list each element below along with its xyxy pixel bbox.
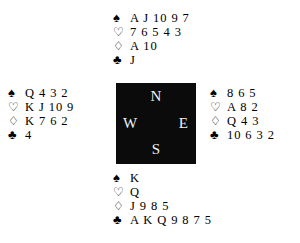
bridge-deal-diagram: ♠ A J 10 9 7 ♡ 7 6 5 4 3 ♢ A 10 ♣ J ♠ Q … [0, 0, 300, 243]
hand-south-clubs-row: ♣ A K Q 9 8 7 5 [113, 213, 212, 227]
hand-west-hearts-cards: K J 10 9 [25, 100, 74, 114]
club-icon: ♣ [210, 128, 227, 142]
hand-north-hearts-row: ♡ 7 6 5 4 3 [113, 25, 190, 39]
hand-east-diamonds-cards: Q 4 3 [227, 114, 259, 128]
hand-south: ♠ K ♡ Q ♢ J 9 8 5 ♣ A K Q 9 8 7 5 [113, 171, 212, 227]
hand-north-hearts-cards: 7 6 5 4 3 [130, 25, 182, 39]
spade-icon: ♠ [210, 86, 227, 100]
compass-label-west: W [123, 116, 137, 131]
compass-label-east: E [179, 116, 188, 131]
hand-north-clubs-row: ♣ J [113, 53, 190, 67]
hand-west-spades-cards: Q 4 3 2 [25, 86, 68, 100]
hand-north-clubs-cards: J [130, 53, 136, 67]
hand-east-diamonds-row: ♢ Q 4 3 [210, 114, 275, 128]
hand-west-hearts-row: ♡ K J 10 9 [8, 100, 74, 114]
club-icon: ♣ [113, 213, 130, 227]
compass-label-south: S [116, 142, 196, 157]
hand-west-clubs-cards: 4 [25, 128, 32, 142]
compass-label-north: N [116, 89, 196, 104]
hand-south-clubs-cards: A K Q 9 8 7 5 [130, 213, 212, 227]
compass-box: N W E S [116, 83, 196, 164]
hand-east-hearts-cards: A 8 2 [227, 100, 259, 114]
spade-icon: ♠ [113, 171, 130, 185]
heart-icon: ♡ [8, 100, 25, 114]
hand-east: ♠ 8 6 5 ♡ A 8 2 ♢ Q 4 3 ♣ 10 6 3 2 [210, 86, 275, 142]
hand-east-spades-cards: 8 6 5 [227, 86, 257, 100]
heart-icon: ♡ [113, 25, 130, 39]
spade-icon: ♠ [8, 86, 25, 100]
hand-east-spades-row: ♠ 8 6 5 [210, 86, 275, 100]
hand-north-diamonds-cards: A 10 [130, 39, 158, 53]
hand-north-spades-row: ♠ A J 10 9 7 [113, 11, 190, 25]
hand-east-hearts-row: ♡ A 8 2 [210, 100, 275, 114]
heart-icon: ♡ [113, 185, 130, 199]
hand-east-clubs-cards: 10 6 3 2 [227, 128, 275, 142]
hand-south-hearts-cards: Q [130, 185, 140, 199]
heart-icon: ♡ [210, 100, 227, 114]
hand-north-diamonds-row: ♢ A 10 [113, 39, 190, 53]
hand-north: ♠ A J 10 9 7 ♡ 7 6 5 4 3 ♢ A 10 ♣ J [113, 11, 190, 67]
hand-south-hearts-row: ♡ Q [113, 185, 212, 199]
hand-south-spades-cards: K [130, 171, 140, 185]
hand-west-diamonds-row: ♢ K 7 6 2 [8, 114, 74, 128]
diamond-icon: ♢ [210, 114, 227, 128]
diamond-icon: ♢ [8, 114, 25, 128]
diamond-icon: ♢ [113, 39, 130, 53]
diamond-icon: ♢ [113, 199, 130, 213]
hand-south-spades-row: ♠ K [113, 171, 212, 185]
club-icon: ♣ [8, 128, 25, 142]
hand-east-clubs-row: ♣ 10 6 3 2 [210, 128, 275, 142]
hand-west-spades-row: ♠ Q 4 3 2 [8, 86, 74, 100]
hand-west-diamonds-cards: K 7 6 2 [25, 114, 68, 128]
hand-west: ♠ Q 4 3 2 ♡ K J 10 9 ♢ K 7 6 2 ♣ 4 [8, 86, 74, 142]
club-icon: ♣ [113, 53, 130, 67]
hand-south-diamonds-cards: J 9 8 5 [130, 199, 169, 213]
hand-north-spades-cards: A J 10 9 7 [130, 11, 190, 25]
hand-west-clubs-row: ♣ 4 [8, 128, 74, 142]
spade-icon: ♠ [113, 11, 130, 25]
hand-south-diamonds-row: ♢ J 9 8 5 [113, 199, 212, 213]
